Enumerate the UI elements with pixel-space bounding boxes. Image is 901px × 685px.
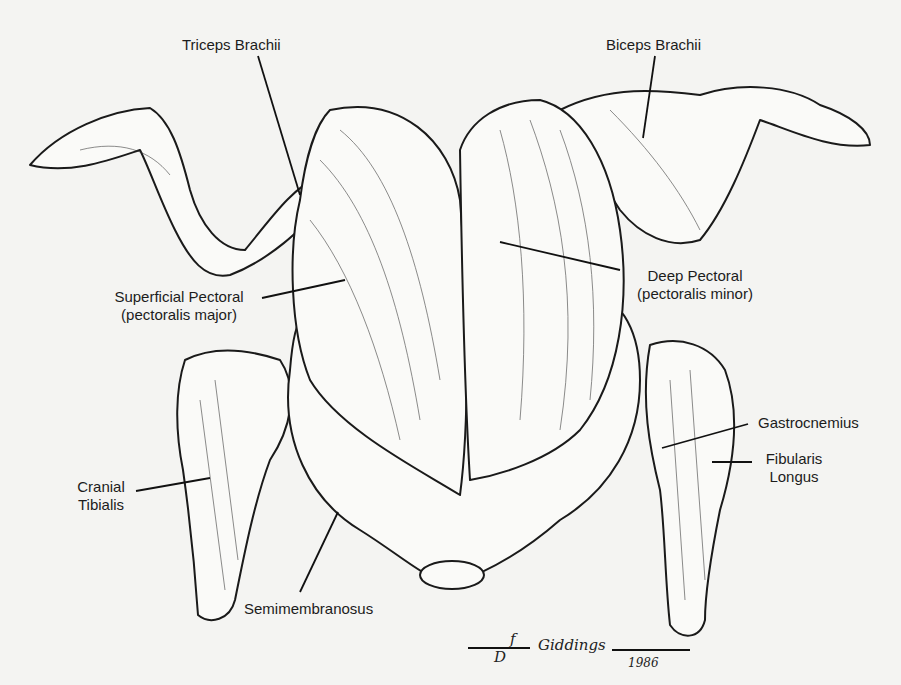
label-gastrocnemius: Gastrocnemius — [758, 414, 859, 432]
label-deep-pectoral-name: Deep Pectoral — [620, 267, 770, 285]
label-fibularis-line2: Longus — [754, 468, 834, 486]
label-cranial-tibialis: Cranial Tibialis — [66, 478, 136, 514]
label-fibularis-longus: Fibularis Longus — [754, 450, 834, 486]
label-cranial-line1: Cranial — [66, 478, 136, 496]
label-superficial-pectoral-name: Superficial Pectoral — [96, 288, 262, 306]
signature-year: 1986 — [628, 656, 659, 670]
label-biceps-brachii: Biceps Brachii — [606, 36, 701, 54]
label-superficial-pectoral-latin: (pectoralis major) — [96, 306, 262, 324]
signature-initials-bottom: D — [494, 648, 506, 666]
label-semimembranosus: Semimembranosus — [244, 600, 373, 618]
label-superficial-pectoral: Superficial Pectoral (pectoralis major) — [96, 288, 262, 324]
label-cranial-line2: Tibialis — [66, 496, 136, 514]
label-deep-pectoral: Deep Pectoral (pectoralis minor) — [620, 267, 770, 303]
frog-ventral-muscle-illustration — [0, 0, 901, 685]
label-triceps-brachii: Triceps Brachii — [182, 36, 281, 54]
frog-muscle-diagram: Triceps Brachii Biceps Brachii Superfici… — [0, 0, 901, 685]
signature-name: Giddings — [538, 636, 606, 654]
signature-initials-top: f — [510, 630, 516, 648]
label-deep-pectoral-latin: (pectoralis minor) — [620, 285, 770, 303]
label-fibularis-line1: Fibularis — [754, 450, 834, 468]
